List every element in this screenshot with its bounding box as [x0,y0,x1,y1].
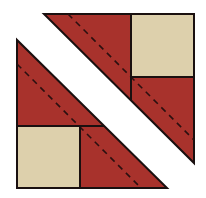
quilt-diagram [0,0,206,198]
lower-left-square [17,126,80,188]
upper-right-square [131,14,194,77]
quilt-svg [0,0,206,198]
